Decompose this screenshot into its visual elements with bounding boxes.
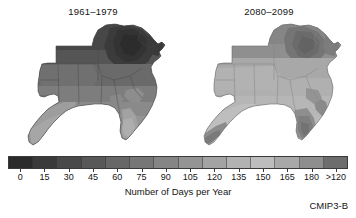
colorbar-swatch: [106, 157, 130, 168]
panel-title-projected: 2080–2099: [214, 6, 324, 17]
colorbar-tick-label: 135: [231, 172, 246, 182]
colorbar-swatch: [300, 157, 324, 168]
map-panel-projected: [178, 18, 356, 152]
colorbar-tick-label: 150: [255, 172, 270, 182]
colorbar-swatch: [130, 157, 154, 168]
colorbar-tick-label: 45: [88, 172, 98, 182]
colorbar-swatch: [324, 157, 347, 168]
colorbar-tick-label: 75: [137, 172, 147, 182]
climate-figure: 1961–1979 2080–2099: [0, 0, 356, 218]
colorbar-tick-label: 105: [183, 172, 198, 182]
colorbar-swatch: [203, 157, 227, 168]
colorbar-swatch: [57, 157, 81, 168]
map-shading-historical: [2, 18, 180, 152]
colorbar-legend: 0153045607590105120135150165180>120 Numb…: [0, 154, 356, 218]
map-historical: [2, 18, 180, 152]
colorbar-tick-label: 180: [304, 172, 319, 182]
colorbar-tick-labels: 0153045607590105120135150165180>120: [8, 172, 348, 185]
colorbar-axis-label: Number of Days per Year: [0, 186, 356, 197]
colorbar-swatch: [154, 157, 178, 168]
model-credit: CMIP3-B: [309, 200, 348, 211]
colorbar-swatch: [275, 157, 299, 168]
colorbar-swatch: [33, 157, 57, 168]
colorbar-tick-label: 30: [64, 172, 74, 182]
colorbar-tick-label: 90: [161, 172, 171, 182]
colorbar-swatch: [227, 157, 251, 168]
panel-title-historical: 1961–1979: [38, 6, 148, 17]
colorbar-tick-label: 60: [112, 172, 122, 182]
colorbar-tick-label: 0: [18, 172, 23, 182]
colorbar-tick-label: 120: [207, 172, 222, 182]
colorbar-tick-label: 165: [280, 172, 295, 182]
colorbar-gradient: [8, 156, 348, 169]
colorbar-swatch: [82, 157, 106, 168]
map-panel-historical: [2, 18, 180, 152]
colorbar-tick-label: 15: [39, 172, 49, 182]
colorbar-swatch: [9, 157, 33, 168]
colorbar-swatch: [251, 157, 275, 168]
colorbar-tick-label: >120: [326, 172, 346, 182]
colorbar-swatch: [179, 157, 203, 168]
map-projected: [178, 18, 356, 152]
map-shading-projected: [178, 18, 356, 152]
